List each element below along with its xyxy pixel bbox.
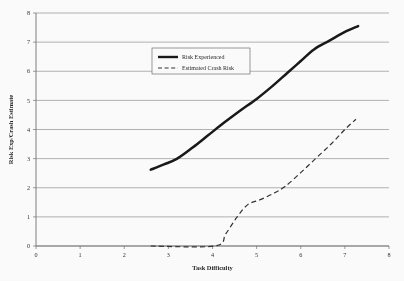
x-tick-label-4: 4: [211, 251, 214, 258]
y-tick-labels: 012345678: [27, 9, 30, 249]
y-tick-label-3: 3: [27, 155, 30, 162]
y-tick-label-6: 6: [27, 67, 30, 74]
x-tick-label-8: 8: [387, 251, 390, 258]
y-tick-label-7: 7: [27, 38, 30, 45]
y-tick-label-0: 0: [27, 242, 30, 249]
x-tick-label-5: 5: [255, 251, 258, 258]
x-tick-label-0: 0: [34, 251, 37, 258]
y-tick-label-4: 4: [27, 126, 30, 133]
y-tick-label-5: 5: [27, 97, 30, 104]
series-line-1: [151, 119, 356, 247]
x-tick-label-1: 1: [79, 251, 82, 258]
line-chart: 012345678 012345678 Risk ExperiencedEsti…: [0, 0, 404, 281]
x-tick-label-6: 6: [299, 251, 302, 258]
x-tick-labels: 012345678: [34, 251, 390, 258]
y-tick-label-8: 8: [27, 9, 30, 16]
x-axis-title: Task Difficulty: [192, 264, 233, 271]
chart-legend: Risk ExperiencedEstimated Crash Risk: [152, 48, 250, 74]
legend-label-0: Risk Experienced: [182, 54, 225, 60]
chart-figure: 012345678 012345678 Risk ExperiencedEsti…: [0, 0, 404, 281]
y-tick-label-1: 1: [27, 213, 30, 220]
x-tick-label-3: 3: [167, 251, 170, 258]
x-tick-label-7: 7: [343, 251, 346, 258]
x-tick-label-2: 2: [123, 251, 126, 258]
y-axis-title: Risk Exp/Crash Estimate: [7, 95, 14, 164]
legend-label-1: Estimated Crash Risk: [182, 65, 234, 71]
y-tick-label-2: 2: [27, 184, 30, 191]
